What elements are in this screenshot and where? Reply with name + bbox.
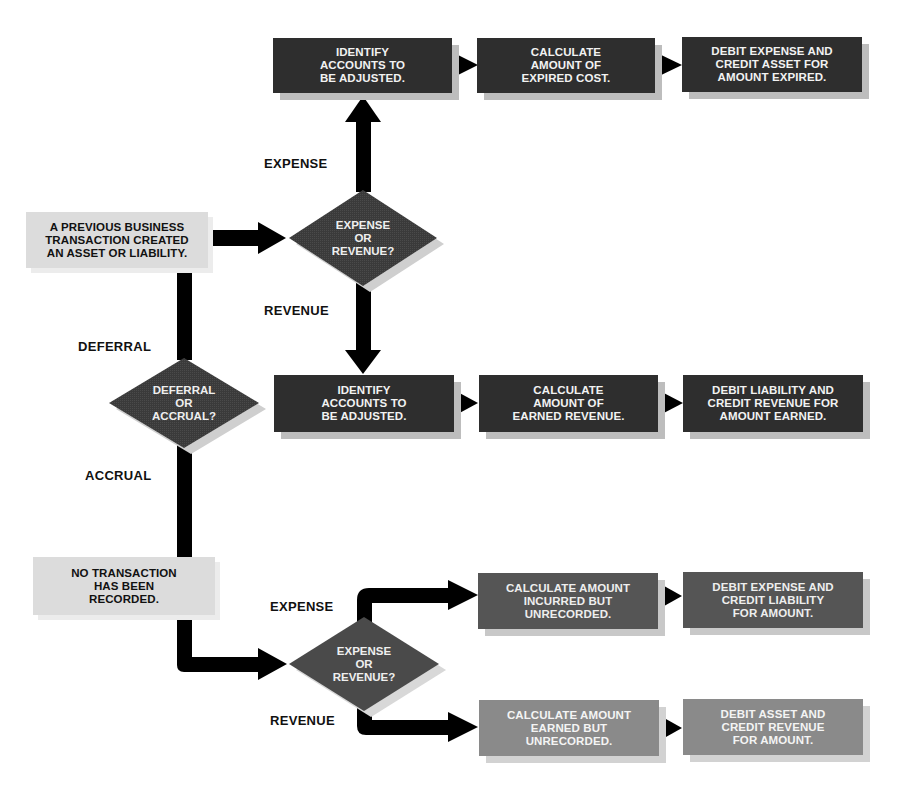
step-debit-expense-credit-asset: DEBIT EXPENSE AND CREDIT ASSET FOR AMOUN… <box>682 37 862 92</box>
step-text: CALCULATE AMOUNT OF EXPIRED COST. <box>522 46 611 85</box>
arrow-bottom-expense <box>357 580 478 630</box>
step-text: IDENTIFY ACCOUNTS TO BE ADJUSTED. <box>320 46 405 85</box>
step-calculate-earned-unrecorded: CALCULATE AMOUNT EARNED BUT UNRECORDED. <box>479 700 659 756</box>
step-debit-expense-credit-liability: DEBIT EXPENSE AND CREDIT LIABILITY FOR A… <box>683 572 863 628</box>
arrow-row1-2 <box>655 52 682 78</box>
label-bottom-expense: EXPENSE <box>270 599 334 614</box>
step-text: IDENTIFY ACCOUNTS TO BE ADJUSTED. <box>321 384 406 423</box>
arrow-top-expense <box>345 96 381 192</box>
source-no-transaction: NO TRANSACTION HAS BEEN RECORDED. <box>33 557 215 615</box>
step-text: CALCULATE AMOUNT INCURRED BUT UNRECORDED… <box>506 582 630 621</box>
step-text: DEBIT EXPENSE AND CREDIT LIABILITY FOR A… <box>712 581 833 620</box>
arrow-source-to-decision-top <box>208 222 286 254</box>
step-calculate-earned-revenue: CALCULATE AMOUNT OF EARNED REVENUE. <box>479 375 658 432</box>
decision-diamond-top <box>289 190 444 292</box>
step-text: DEBIT EXPENSE AND CREDIT ASSET FOR AMOUN… <box>711 45 832 84</box>
step-text: DEBIT LIABILITY AND CREDIT REVENUE FOR A… <box>708 384 839 423</box>
step-debit-asset-credit-revenue: DEBIT ASSET AND CREDIT REVENUE FOR AMOUN… <box>683 699 863 755</box>
step-identify-accounts-expense: IDENTIFY ACCOUNTS TO BE ADJUSTED. <box>273 38 452 93</box>
source-none-text: NO TRANSACTION HAS BEEN RECORDED. <box>71 567 177 606</box>
arrow-row2-1 <box>454 390 478 416</box>
label-top-revenue: REVENUE <box>264 303 329 318</box>
adjusting-entries-flowchart: A PREVIOUS BUSINESS TRANSACTION CREATED … <box>0 0 902 785</box>
line-source-to-deferral-accrual <box>177 268 192 360</box>
label-bottom-revenue: REVENUE <box>270 713 335 728</box>
arrow-row4-1 <box>657 714 682 742</box>
source-previous-text: A PREVIOUS BUSINESS TRANSACTION CREATED … <box>45 221 189 260</box>
step-identify-accounts-revenue: IDENTIFY ACCOUNTS TO BE ADJUSTED. <box>274 375 454 432</box>
step-text: CALCULATE AMOUNT EARNED BUT UNRECORDED. <box>507 709 631 748</box>
label-accrual: ACCRUAL <box>85 468 151 483</box>
label-top-expense: EXPENSE <box>264 156 328 171</box>
step-debit-liability-credit-revenue: DEBIT LIABILITY AND CREDIT REVENUE FOR A… <box>683 375 863 432</box>
label-deferral: DEFERRAL <box>78 339 151 354</box>
arrow-no-transaction-to-decision-bottom <box>177 614 287 680</box>
arrow-top-revenue <box>345 280 381 374</box>
line-accrual-to-no-transaction <box>177 443 192 557</box>
step-text: CALCULATE AMOUNT OF EARNED REVENUE. <box>512 384 624 423</box>
arrow-row1-1 <box>452 52 478 78</box>
source-previous-transaction: A PREVIOUS BUSINESS TRANSACTION CREATED … <box>26 212 208 268</box>
arrow-row2-2 <box>658 390 683 416</box>
decision-diamond-deferral-accrual <box>109 358 266 454</box>
decision-diamond-bottom <box>289 617 446 717</box>
step-text: DEBIT ASSET AND CREDIT REVENUE FOR AMOUN… <box>721 708 826 747</box>
step-calculate-incurred-unrecorded: CALCULATE AMOUNT INCURRED BUT UNRECORDED… <box>478 573 658 629</box>
arrow-row3-1 <box>657 582 682 610</box>
step-calculate-expired-cost: CALCULATE AMOUNT OF EXPIRED COST. <box>477 38 655 93</box>
